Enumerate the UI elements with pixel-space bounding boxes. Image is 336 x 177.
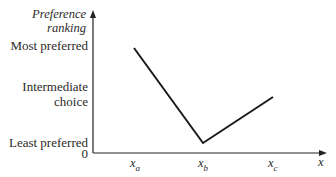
- tick-most-preferred: Most preferred: [10, 39, 88, 52]
- x-tick-c: xc: [268, 157, 278, 173]
- y-axis-arrow-icon: [90, 10, 96, 18]
- tick-least-preferred: Least preferred: [9, 136, 88, 149]
- x-axis-label: x: [318, 156, 324, 169]
- y-axis-label-2: ranking: [47, 22, 86, 35]
- tick-intermediate-2: choice: [54, 95, 88, 108]
- tick-zero: 0: [82, 147, 89, 160]
- tick-intermediate-1: Intermediate: [22, 80, 88, 93]
- x-tick-b: xb: [198, 157, 208, 173]
- preference-line: [134, 48, 273, 143]
- y-axis-label-1: Preference: [32, 8, 86, 21]
- x-tick-a: xa: [130, 157, 140, 173]
